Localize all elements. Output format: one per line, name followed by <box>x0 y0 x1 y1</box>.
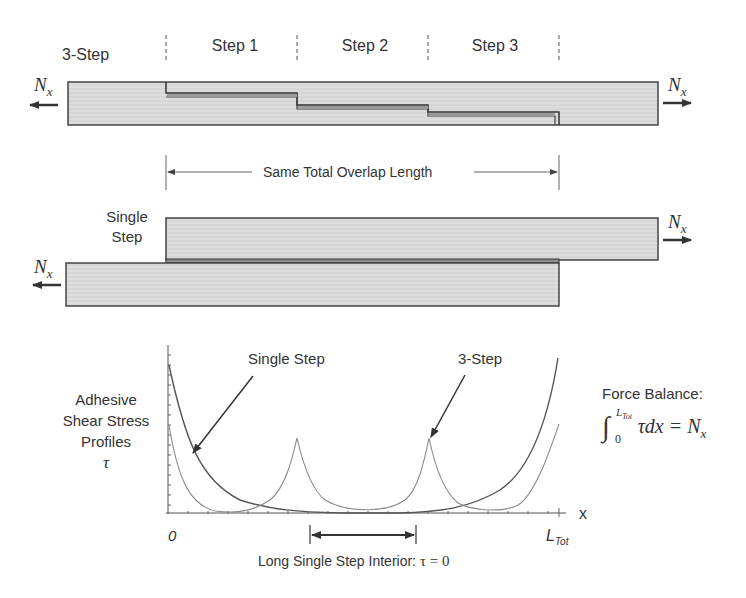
interior-label: Long Single Step Interior: τ = 0 <box>258 553 449 570</box>
diagram-canvas <box>0 0 746 598</box>
force-balance-equation: ∫LTot0τdx = Nx <box>602 408 706 448</box>
interior-dimension <box>310 525 416 544</box>
three-step-curve <box>169 424 559 512</box>
single-step-annotation: Single Step <box>248 350 325 367</box>
profile-ylabel: Adhesive Shear Stress Profiles τ <box>50 389 162 473</box>
three-step-annotation-arrow <box>431 375 465 437</box>
three-step-force-right-label: Nx <box>668 74 686 100</box>
integral-upper-limit: LTot <box>616 406 632 421</box>
three-step-annotation: 3-Step <box>458 350 502 367</box>
single-step-force-right-label: Nx <box>668 211 686 237</box>
step-3-label: Step 3 <box>455 37 535 55</box>
step-1-label: Step 1 <box>195 37 275 55</box>
integral-lower-limit: 0 <box>615 432 621 447</box>
three-step-force-left-label: Nx <box>34 74 52 100</box>
single-step-annotation-arrow <box>193 376 253 453</box>
three-step-joint <box>68 82 658 125</box>
single-step-label: Single Step <box>96 207 158 247</box>
single-step-curve <box>169 358 558 513</box>
x-axis-label: x <box>579 505 587 523</box>
x-origin-label: 0 <box>168 527 176 544</box>
three-step-label: 3-Step <box>62 46 109 64</box>
single-step-force-left-label: Nx <box>34 256 52 282</box>
overlap-length-label: Same Total Overlap Length <box>263 164 432 180</box>
force-balance-title: Force Balance: <box>602 385 703 402</box>
step-2-label: Step 2 <box>325 37 405 55</box>
x-end-label: LTot <box>546 527 568 547</box>
